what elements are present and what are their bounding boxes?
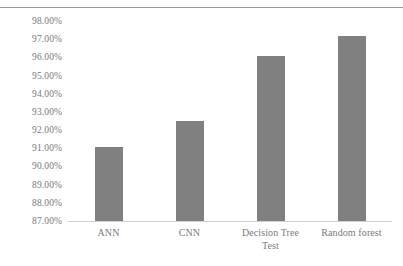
- x-axis-category-labels: ANNCNNDecision TreeTestRandom forest: [68, 226, 392, 266]
- x-tick-label: Random forest: [311, 226, 392, 239]
- y-axis-tick-labels: 87.00%88.00%89.00%90.00%91.00%92.00%93.0…: [0, 21, 62, 221]
- y-tick-label: 96.00%: [0, 52, 62, 62]
- y-tick-label: 87.00%: [0, 216, 62, 226]
- x-tick-label: Decision TreeTest: [230, 226, 311, 252]
- bar-slot: [149, 21, 230, 221]
- x-tick-label: CNN: [149, 226, 230, 239]
- y-tick-label: 90.00%: [0, 161, 62, 171]
- bar[interactable]: [257, 56, 285, 221]
- y-tick-label: 94.00%: [0, 89, 62, 99]
- y-tick-label: 93.00%: [0, 107, 62, 117]
- y-tick-label: 89.00%: [0, 180, 62, 190]
- plot-area: [68, 21, 392, 221]
- bar[interactable]: [95, 147, 123, 221]
- bar-slot: [230, 21, 311, 221]
- x-axis-baseline: [68, 221, 392, 222]
- bar-slot: [68, 21, 149, 221]
- bar-slot: [311, 21, 392, 221]
- bar[interactable]: [338, 36, 366, 221]
- y-tick-label: 88.00%: [0, 198, 62, 208]
- x-axis-title: Test: [230, 239, 311, 252]
- y-tick-label: 91.00%: [0, 143, 62, 153]
- bar[interactable]: [176, 121, 204, 221]
- x-tick-label: ANN: [68, 226, 149, 239]
- y-tick-label: 95.00%: [0, 71, 62, 81]
- y-tick-label: 92.00%: [0, 125, 62, 135]
- y-tick-label: 98.00%: [0, 16, 62, 26]
- y-tick-label: 97.00%: [0, 34, 62, 44]
- bar-chart-figure: 87.00%88.00%89.00%90.00%91.00%92.00%93.0…: [0, 0, 403, 266]
- top-divider-rule: [0, 7, 403, 8]
